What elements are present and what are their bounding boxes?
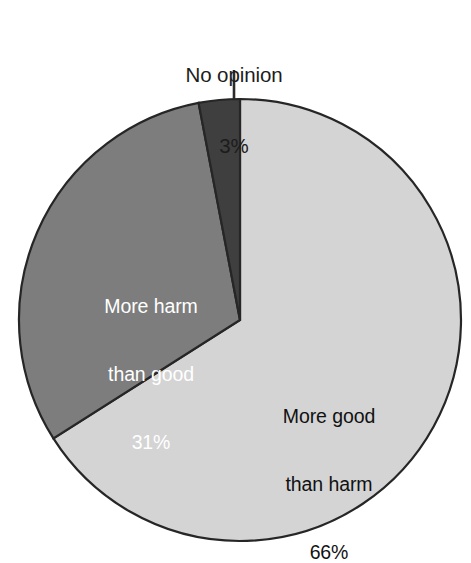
slice-label-more-harm-line2: than good bbox=[62, 363, 240, 386]
slice-label-more-good-line1: More good bbox=[234, 405, 424, 428]
slice-label-more-harm-line1: More harm bbox=[62, 295, 240, 318]
pie-chart: No opinion 3% More harm than good 31% Mo… bbox=[0, 0, 471, 563]
slice-label-more-harm-than-good: More harm than good 31% bbox=[62, 250, 240, 499]
slice-label-more-good-line2: than harm bbox=[234, 473, 424, 496]
slice-label-no-opinion-value: 3% bbox=[144, 134, 324, 158]
slice-label-more-harm-value: 31% bbox=[62, 431, 240, 454]
slice-label-no-opinion: No opinion 3% bbox=[144, 15, 324, 205]
slice-label-no-opinion-text: No opinion bbox=[144, 63, 324, 87]
slice-label-more-good-than-harm: More good than harm 66% bbox=[234, 360, 424, 563]
slice-label-more-good-value: 66% bbox=[234, 541, 424, 563]
